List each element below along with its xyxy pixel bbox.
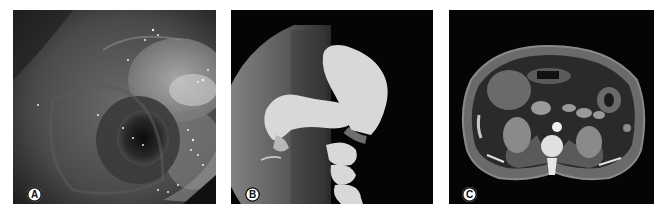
endoscopy-image — [13, 10, 216, 204]
panel-label-a: A — [27, 187, 42, 202]
panel-b-barium-image: B — [231, 10, 433, 204]
panel-c-ct-image: C — [449, 10, 654, 204]
panel-a-endoscopy-image: A — [13, 10, 216, 204]
ct-axial-image — [449, 10, 654, 204]
panel-label-c: C — [462, 187, 477, 202]
panel-label-b: B — [245, 187, 260, 202]
barium-radiograph-image — [231, 10, 433, 204]
